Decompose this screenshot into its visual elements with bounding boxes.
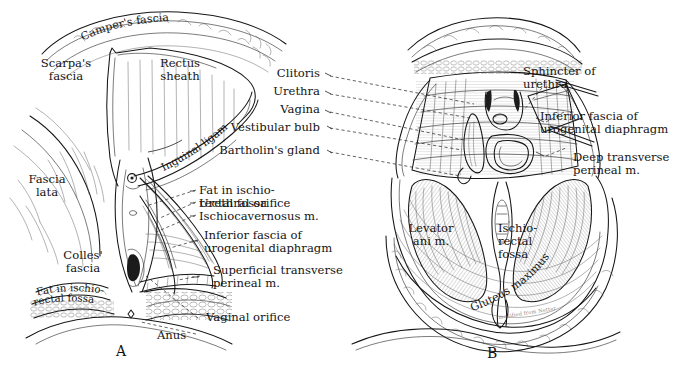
label-urethra: Urethra [228,85,320,98]
anatomical-line-art: .k {fill:none;stroke:#151515;stroke-widt… [0,0,680,371]
label-ischiorectal-fossa: Ischio- rectal fossa [498,222,537,261]
label-deep-transverse-perineal-m: Deep transverse perineal m. [573,151,669,177]
panel-b-leader-lines [330,76,566,176]
label-bulbospongiosus-m: Ischiocavernosus m. [199,210,319,223]
panel-letter-b: B [487,346,497,362]
panel-letter-a: A [116,344,126,360]
label-scarpas-fascia: Scarpa's fascia [28,57,104,83]
figure-canvas: .k {fill:none;stroke:#151515;stroke-widt… [0,0,680,371]
label-bartholins-gland: Bartholin's gland [198,144,320,157]
label-inferior-fascia-urogenital-diaphragm-b: Inferior fascia of urogenital diaphragm [540,110,668,136]
label-fascia-lata: Fascia lata [12,173,82,199]
label-rectus-sheath: Rectus sheath [140,57,220,83]
label-campers-fascia: Camper's fascia [78,11,169,44]
label-levator-ani-m: Levator ani m. [396,222,466,248]
label-vestibular-bulb: Vestibular bulb [208,121,320,134]
label-colles-fascia: Colles' fascia [48,249,118,275]
label-sphincter-of-urethra: Sphincter of urethra [523,65,596,91]
label-vagina: Vagina [228,103,320,116]
label-fat-ischiorectal-fossa: Fat in ischio- [35,282,105,297]
label-inferior-fascia-urogenital-diaphragm-a: Inferior fascia of urogenital diaphragm [204,229,332,255]
label-inguinal-ligament: Inguinal ligament [0,0,229,173]
artist-attribution: modified from Netter [498,305,556,320]
label-clitoris: Clitoris [228,67,320,80]
label-anus: Anus [157,329,186,342]
label-fat-ischiorectal-fossa-line2: rectal fossa [32,292,95,307]
label-vaginal-orifice: Vaginal orifice [206,311,290,324]
curved-label-layer: Camper's fascia Inguinal ligament Fat in… [0,0,680,371]
panel-a-leader-lines [141,190,200,334]
label-superficial-transverse-perineal-m: Superficial transverse perineal m. [213,264,343,290]
